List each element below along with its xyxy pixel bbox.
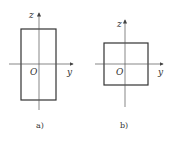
y-axis-label: y: [66, 67, 73, 77]
z-axis-label: z: [28, 10, 34, 20]
rectangle-section: [21, 29, 56, 100]
y-axis-label: y: [157, 67, 164, 77]
origin-label: O: [116, 67, 124, 77]
caption-b: b): [120, 121, 128, 130]
origin-label: O: [30, 67, 38, 77]
cross-section-diagram: z O y a) z O y b): [0, 0, 175, 142]
figure-a: z O y a): [9, 10, 73, 130]
figure-b: z O y b): [95, 19, 164, 130]
z-axis-label: z: [116, 19, 122, 29]
caption-a: a): [36, 121, 44, 130]
